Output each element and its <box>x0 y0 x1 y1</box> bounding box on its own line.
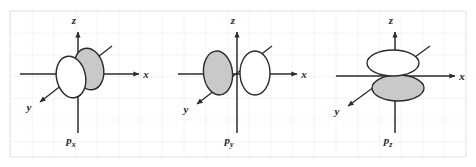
pz-x-axis-label: x <box>458 70 465 82</box>
pz-orbital-label: pz <box>383 134 394 149</box>
py-x-axis-label: x <box>300 68 307 80</box>
pz-orbital-label-subscript: z <box>388 140 393 149</box>
py-lobe-shaded <box>201 50 234 97</box>
px-lobes <box>52 45 107 100</box>
pz-y-axis-label: y <box>333 105 340 117</box>
py-z-axis-label: z <box>230 14 236 26</box>
p-z-orbital-panel: z x y pz <box>333 14 466 149</box>
py-orbital-label: py <box>223 134 234 149</box>
px-orbital-label-subscript: x <box>71 140 76 149</box>
py-lobes <box>201 50 270 97</box>
px-z-axis-label: z <box>71 14 77 26</box>
p-y-orbital-panel: z x y py <box>178 14 307 149</box>
py-axes <box>178 32 297 133</box>
pz-lobe-shaded <box>372 75 424 101</box>
pz-z-axis-label: z <box>388 14 394 26</box>
py-orbital-label-subscript: y <box>229 140 234 149</box>
px-y-axis-label: y <box>25 101 32 113</box>
p-orbitals-figure: z x y px z x y py <box>0 0 476 167</box>
px-orbital-label: px <box>65 134 76 149</box>
py-lobe-unshaded <box>240 51 270 95</box>
pz-lobe-unshaded <box>367 50 419 76</box>
px-x-axis-label: x <box>142 68 149 80</box>
p-x-orbital-panel: z x y px <box>20 14 149 149</box>
py-y-axis-label: y <box>182 103 189 115</box>
